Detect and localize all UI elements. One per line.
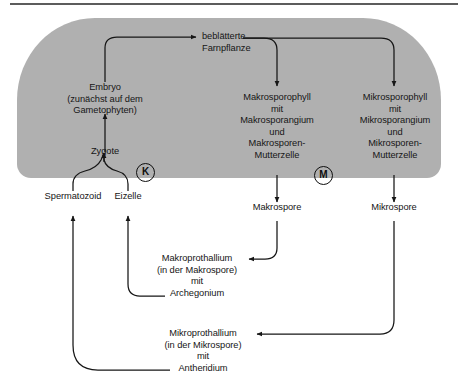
node-makrosporophyll-line-1: Makrosporophyll [218,92,336,104]
node-makrosporophyll-line-5: Makrosporen- [218,138,336,150]
node-mikrosporophyll-line-3: Mikrosporangium [336,115,454,127]
node-farnpflanze-line-2: Farnpflanze [202,43,286,55]
arrow-makrospore-to-makroprothallium [249,221,277,259]
karyogamie-marker: K [136,163,155,182]
node-makrosporophyll-line-3: Makrosporangium [218,115,336,127]
node-mikroprothallium: Mikroprothallium (in der Mikrospore) mit… [152,328,254,374]
node-mikrosporophyll-line-6: Mutterzelle [336,150,454,162]
node-embryo-line-2: (zunächst auf dem [25,94,185,106]
node-makrosporophyll: Makrosporophyll mit Makrosporangium und … [218,92,336,162]
node-mikrospore-label: Mikrospore [354,202,434,214]
node-mikrosporophyll-line-1: Mikrosporophyll [336,92,454,104]
arrow-spermatozoid-to-zygote [73,153,104,191]
meiose-marker: M [314,166,333,185]
node-mikrosporophyll: Mikrosporophyll mit Mikrosporangium und … [336,92,454,162]
node-mikroprothallium-line-1: Mikroprothallium [152,328,254,340]
node-makrosporophyll-line-4: und [218,127,336,139]
node-zygote: Zygote [65,146,145,158]
node-embryo-line-1: Embryo [25,82,185,94]
karyogamie-marker-label: K [142,166,149,177]
node-mikroprothallium-line-2: (in der Mikrospore) [152,340,254,352]
node-mikroprothallium-line-3: mit [152,351,254,363]
node-farnpflanze-line-1: beblätterte [202,31,286,43]
arrow-eizelle-to-zygote [104,153,128,191]
node-makrosporophyll-line-6: Mutterzelle [218,150,336,162]
node-makroprothallium-line-1: Makroprothallium [146,253,248,265]
node-zygote-label: Zygote [65,146,145,158]
node-mikroprothallium-line-4: Antheridium [152,363,254,375]
node-embryo: Embryo (zunächst auf dem Gametophyten) [25,82,185,117]
node-mikrosporophyll-line-2: mit [336,104,454,116]
fern-life-cycle-diagram: beblätterte Farnpflanze Embryo (zunächst… [0,0,461,390]
node-eizelle-label: Eizelle [100,191,156,203]
node-mikrospore: Mikrospore [354,202,434,214]
node-eizelle: Eizelle [100,191,156,203]
node-makrospore: Makrospore [237,202,317,214]
node-mikrosporophyll-line-5: Mikrosporen- [336,138,454,150]
node-makrospore-label: Makrospore [237,202,317,214]
node-embryo-line-3: Gametophyten) [25,105,185,117]
arrow-embryo-to-farnpflanze [105,37,196,82]
node-makroprothallium-line-2: (in der Makrospore) [146,265,248,277]
node-mikrosporophyll-line-4: und [336,127,454,139]
node-makroprothallium-line-4: Archegonium [146,288,248,300]
meiose-marker-label: M [319,169,327,180]
node-makrosporophyll-line-2: mit [218,104,336,116]
node-makroprothallium-line-3: mit [146,276,248,288]
node-farnpflanze: beblätterte Farnpflanze [202,31,286,54]
node-makroprothallium: Makroprothallium (in der Makrospore) mit… [146,253,248,299]
